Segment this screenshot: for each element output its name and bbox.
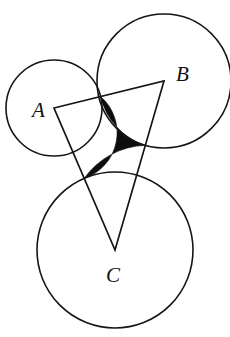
vertex-label-b: B [176,62,189,86]
diagram-canvas: A B C [0,0,230,337]
vertex-label-c: C [106,263,121,287]
geometry-figure: A B C [0,0,230,337]
vertex-label-a: A [30,98,45,122]
shaded-curvilinear-triangle [84,97,145,179]
